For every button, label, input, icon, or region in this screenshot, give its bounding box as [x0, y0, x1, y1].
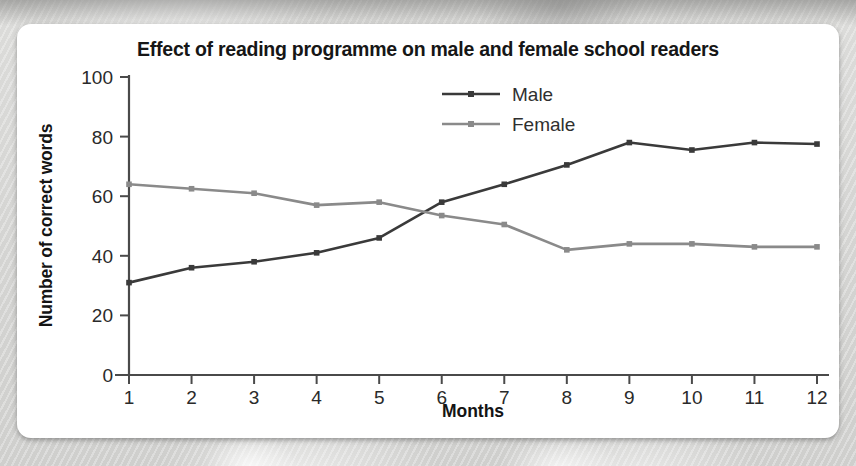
series-line	[129, 143, 817, 283]
data-point-marker	[126, 280, 132, 286]
data-point-marker	[501, 222, 507, 228]
legend-label: Female	[512, 114, 575, 135]
data-point-marker	[564, 162, 570, 168]
x-tick-label: 10	[681, 387, 702, 408]
legend-item-female: Female	[442, 114, 575, 135]
x-tick-label: 8	[562, 387, 573, 408]
x-tick-label: 3	[249, 387, 260, 408]
legend-label: Male	[512, 84, 553, 105]
data-point-marker	[251, 259, 257, 265]
data-point-marker	[376, 199, 382, 205]
data-point-marker	[189, 186, 195, 192]
legend-item-male: Male	[442, 84, 553, 105]
x-tick-label: 1	[124, 387, 135, 408]
data-point-marker	[752, 244, 758, 250]
x-tick-label: 4	[311, 387, 322, 408]
y-axis-ticks: 020406080100	[81, 67, 129, 386]
data-point-marker	[314, 202, 320, 208]
x-tick-label: 9	[624, 387, 635, 408]
x-axis-ticks: 123456789101112	[124, 375, 828, 408]
y-tick-label: 20	[92, 305, 113, 326]
y-tick-label: 40	[92, 246, 113, 267]
line-chart-plot: 020406080100 123456789101112 MaleFemale	[17, 24, 839, 438]
legend-marker-swatch	[468, 121, 474, 127]
data-point-marker	[501, 181, 507, 187]
data-point-marker	[689, 241, 695, 247]
data-series-group	[126, 140, 820, 286]
y-tick-label: 0	[102, 365, 113, 386]
data-point-marker	[189, 265, 195, 271]
data-point-marker	[814, 244, 820, 250]
data-point-marker	[627, 140, 633, 146]
data-point-marker	[689, 147, 695, 153]
x-tick-label: 2	[186, 387, 197, 408]
data-point-marker	[251, 190, 257, 196]
y-tick-label: 100	[81, 67, 113, 88]
data-point-marker	[752, 140, 758, 146]
y-tick-label: 60	[92, 186, 113, 207]
x-tick-label: 7	[499, 387, 510, 408]
legend-marker-swatch	[468, 91, 474, 97]
data-point-marker	[814, 141, 820, 147]
x-tick-label: 12	[806, 387, 827, 408]
chart-panel: Effect of reading programme on male and …	[17, 24, 839, 438]
x-tick-label: 11	[745, 387, 765, 408]
x-tick-label: 6	[436, 387, 447, 408]
data-point-marker	[126, 181, 132, 187]
data-point-marker	[376, 235, 382, 241]
chart-legend: MaleFemale	[442, 84, 575, 135]
series-male	[126, 140, 820, 286]
data-point-marker	[564, 247, 570, 253]
data-point-marker	[439, 213, 445, 219]
data-point-marker	[439, 199, 445, 205]
axes-group	[115, 75, 829, 375]
data-point-marker	[314, 250, 320, 256]
x-tick-label: 5	[374, 387, 385, 408]
data-point-marker	[627, 241, 633, 247]
y-tick-label: 80	[92, 127, 113, 148]
